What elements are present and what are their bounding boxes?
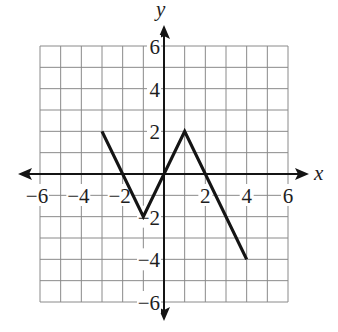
- coordinate-plane: −6−4−2246642−2−4−6 x y: [0, 0, 338, 332]
- x-tick-label: 4: [241, 184, 252, 208]
- y-tick-label: −6: [138, 291, 160, 315]
- x-tick-label: 2: [200, 184, 211, 208]
- y-tick-label: 6: [150, 35, 161, 59]
- x-tick-label: 6: [283, 184, 294, 208]
- y-tick-label: 4: [150, 78, 161, 102]
- y-tick-label: 2: [150, 120, 161, 144]
- y-tick-label: −4: [138, 248, 161, 272]
- x-tick-label: −6: [26, 184, 48, 208]
- x-tick-label: −4: [67, 184, 90, 208]
- x-axis-label: x: [313, 161, 324, 185]
- y-axis-label: y: [154, 0, 166, 21]
